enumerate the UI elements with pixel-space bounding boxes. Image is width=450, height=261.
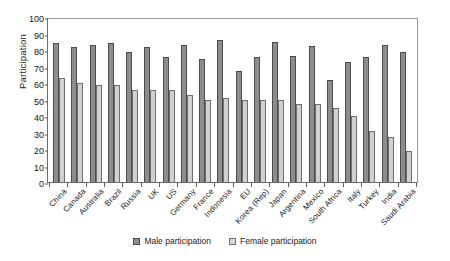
female-bar [77,83,83,182]
female-bar [315,104,321,182]
legend-item-label: Female participation [240,236,317,246]
female-bar [296,104,302,182]
bar-group [68,19,86,182]
female-bar [351,116,357,182]
female-bar [406,151,412,182]
x-axis-label: US [165,187,179,201]
x-axis-label: EU [238,187,252,201]
legend-item[interactable]: Female participation [229,236,317,246]
female-bar [242,100,248,183]
female-bar [187,95,193,182]
bar-group [50,19,68,182]
female-bar [150,90,156,182]
bar-group [306,19,324,182]
bar-group [196,19,214,182]
participation-bar-chart: Participation 0102030405060708090100 Chi… [0,0,450,261]
female-bar [260,100,266,183]
bar-groups [48,19,417,182]
bar-group [397,19,415,182]
legend-item[interactable]: Male participation [133,236,211,246]
bar-group [342,19,360,182]
female-bar [369,131,375,182]
bar-group [269,19,287,182]
legend-item-label: Male participation [144,236,211,246]
female-bar [205,100,211,183]
female-bar [96,85,102,182]
female-legend-swatch [229,238,236,245]
y-axis-title: Participation [17,2,28,122]
bar-group [379,19,397,182]
bar-group [324,19,342,182]
x-axis-label: UK [146,187,160,201]
female-bar [223,98,229,182]
bar-group [251,19,269,182]
female-bar [59,78,65,182]
female-bar [114,85,120,182]
bar-group [360,19,378,182]
bar-group [141,19,159,182]
bar-group [214,19,232,182]
female-bar [388,137,394,182]
female-bar [333,108,339,182]
bar-group [233,19,251,182]
bar-group [178,19,196,182]
bar-group [287,19,305,182]
male-legend-swatch [133,238,140,245]
chart-legend: Male participationFemale participation [0,236,450,246]
bar-group [87,19,105,182]
female-bar [169,90,175,182]
female-bar [278,100,284,182]
bar-group [160,19,178,182]
bar-group [105,19,123,182]
bar-group [123,19,141,182]
plot-area: 0102030405060708090100 [47,18,418,183]
female-bar [132,90,138,182]
